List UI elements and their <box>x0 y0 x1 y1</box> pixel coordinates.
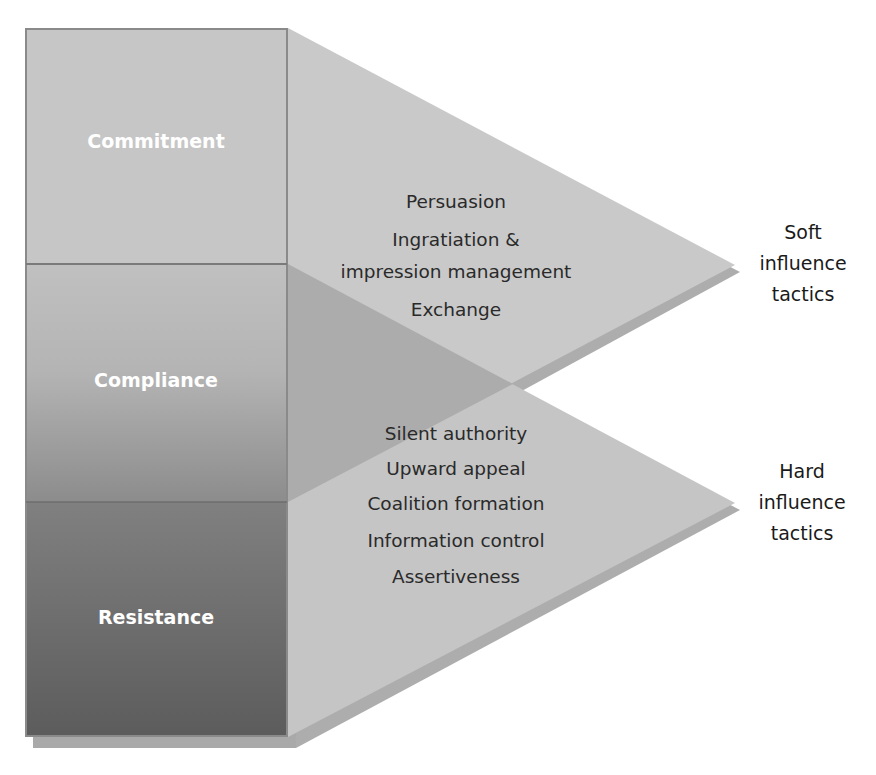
outcome-label-compliance: Compliance <box>94 369 218 391</box>
tactic-item: Ingratiation & <box>392 229 519 250</box>
influence-tactics-diagram: Commitment Compliance Resistance Persuas… <box>0 0 876 775</box>
soft-tactics-label: Soft influence tactics <box>759 221 846 305</box>
svg-text:Soft: Soft <box>784 221 822 243</box>
tactic-item: Information control <box>367 530 544 551</box>
svg-text:influence: influence <box>759 252 846 274</box>
outcome-label-commitment: Commitment <box>87 130 224 152</box>
tactic-item: Persuasion <box>406 191 506 212</box>
outcome-label-resistance: Resistance <box>98 606 214 628</box>
hard-tactics-label: Hard influence tactics <box>758 460 845 544</box>
tactic-item: impression management <box>341 261 572 282</box>
svg-text:tactics: tactics <box>771 522 834 544</box>
tactic-item: Assertiveness <box>392 566 520 587</box>
svg-text:tactics: tactics <box>772 283 835 305</box>
tactic-item: Silent authority <box>385 423 528 444</box>
tactic-item: Upward appeal <box>386 458 525 479</box>
tactic-item: Coalition formation <box>367 493 544 514</box>
tactic-item: Exchange <box>411 299 501 320</box>
svg-text:influence: influence <box>758 491 845 513</box>
svg-text:Hard: Hard <box>779 460 824 482</box>
